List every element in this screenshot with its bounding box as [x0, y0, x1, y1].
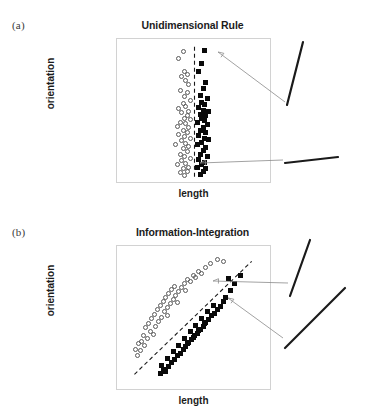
data-point-filled-square	[196, 133, 201, 138]
figure-container: (a) Unidimensional Rule orientation leng…	[0, 0, 375, 414]
data-point-open-circle	[152, 312, 157, 317]
data-point-filled-square	[232, 281, 237, 286]
data-point-filled-square	[171, 349, 176, 354]
data-point-filled-square	[199, 61, 204, 66]
y-axis-label-b: orientation	[45, 231, 56, 351]
data-point-open-circle	[142, 343, 147, 348]
data-point-filled-square	[198, 152, 203, 157]
data-point-open-circle	[185, 149, 190, 154]
data-point-open-circle	[181, 49, 186, 54]
panel-title-a: Unidimensional Rule	[110, 19, 275, 31]
data-point-filled-square	[205, 309, 210, 314]
data-point-filled-square	[201, 86, 206, 91]
data-point-open-circle	[199, 271, 204, 276]
data-point-filled-square	[211, 303, 216, 308]
data-point-open-circle	[182, 173, 187, 178]
diagonal-line-stimulus	[285, 288, 345, 348]
data-point-filled-square	[195, 120, 200, 125]
data-point-open-circle	[138, 348, 143, 353]
data-point-filled-square	[188, 329, 193, 334]
data-point-filled-square	[223, 295, 228, 300]
data-point-filled-square	[203, 113, 208, 118]
data-point-filled-square	[205, 154, 210, 159]
shallow-line-stimulus	[285, 157, 338, 163]
data-point-open-circle	[185, 72, 190, 77]
data-point-filled-square	[159, 363, 164, 368]
steep-line-stimulus	[290, 240, 310, 296]
data-point-filled-square	[196, 69, 201, 74]
data-point-filled-square	[205, 122, 210, 127]
data-point-filled-square	[206, 137, 211, 142]
data-point-filled-square	[195, 165, 200, 170]
panel-label-a: (a)	[12, 19, 25, 31]
data-point-filled-square	[203, 80, 208, 85]
data-point-open-circle	[188, 136, 193, 141]
data-point-filled-square	[198, 93, 203, 98]
plot-area-b	[116, 245, 271, 390]
data-point-filled-square	[165, 356, 170, 361]
data-point-filled-square	[198, 172, 203, 177]
data-point-filled-square	[163, 369, 168, 374]
data-point-filled-square	[182, 336, 187, 341]
data-point-open-circle	[188, 279, 193, 284]
data-point-filled-square	[195, 142, 200, 147]
panel-a: (a) Unidimensional Rule orientation leng…	[0, 0, 375, 207]
data-point-open-circle	[188, 156, 193, 161]
data-point-filled-square	[202, 102, 207, 107]
data-point-open-circle	[221, 259, 226, 264]
data-point-open-circle	[159, 315, 164, 320]
x-axis-label-a: length	[116, 188, 271, 199]
data-point-open-circle	[175, 162, 180, 167]
data-point-filled-square	[203, 130, 208, 135]
data-point-filled-square	[202, 321, 207, 326]
data-point-filled-square	[226, 276, 231, 281]
data-point-filled-square	[238, 273, 243, 278]
data-point-open-circle	[151, 332, 156, 337]
steep-line-stimulus	[287, 42, 303, 105]
data-point-filled-square	[185, 341, 190, 346]
panel-title-b: Information-Integration	[110, 226, 275, 238]
data-point-filled-square	[199, 140, 204, 145]
data-point-open-circle	[175, 300, 180, 305]
data-point-filled-square	[202, 48, 207, 53]
panel-b: (b) Information-Integration orientation …	[0, 207, 375, 414]
data-point-open-circle	[188, 117, 193, 122]
decision-bound-b	[117, 246, 271, 390]
data-point-filled-square	[228, 288, 233, 293]
data-point-filled-square	[176, 343, 181, 348]
data-point-open-circle	[175, 124, 180, 129]
plot-area-a	[116, 38, 271, 183]
x-axis-label-b: length	[116, 395, 271, 406]
data-point-filled-square	[218, 304, 223, 309]
data-point-filled-square	[198, 128, 203, 133]
data-point-filled-square	[191, 335, 196, 340]
data-point-open-circle	[182, 116, 187, 121]
data-point-filled-square	[199, 316, 204, 321]
data-point-filled-square	[196, 328, 201, 333]
data-point-filled-square	[193, 323, 198, 328]
data-point-open-circle	[178, 88, 183, 93]
data-point-open-circle	[186, 144, 191, 149]
data-point-open-circle	[145, 336, 150, 341]
panel-label-b: (b)	[12, 226, 25, 238]
data-point-filled-square	[196, 157, 201, 162]
y-axis-label-a: orientation	[45, 24, 56, 144]
decision-bound-a	[117, 39, 271, 183]
data-point-open-circle	[176, 132, 181, 137]
data-point-filled-square	[205, 96, 210, 101]
